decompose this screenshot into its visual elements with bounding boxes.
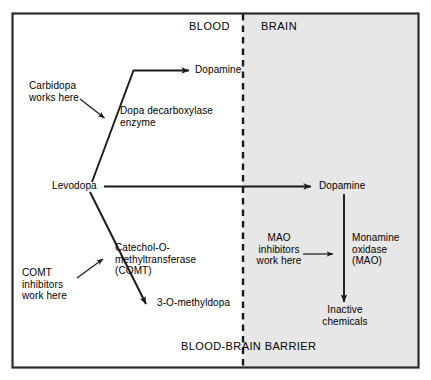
annotation-mao-inhibitors-work-here: MAO inhibitors work here bbox=[251, 232, 307, 267]
annotation-carbidopa-works-here: Carbidopa works here bbox=[29, 80, 79, 103]
region-label-blood: BLOOD bbox=[189, 21, 230, 33]
node-dopamine-brain: Dopamine bbox=[319, 180, 365, 192]
annotation-comt-inhibitors-work-here: COMT inhibitors work here bbox=[22, 267, 67, 302]
node-3-o-methyldopa: 3-O-methyldopa bbox=[157, 297, 230, 309]
node-levodopa: Levodopa bbox=[52, 180, 97, 192]
blood-brain-barrier-diagram: BLOOD BRAIN Dopamine Levodopa Dopamine 3… bbox=[0, 0, 431, 380]
enzyme-comt: Catechol-O- methyltransferase (COMT) bbox=[115, 242, 196, 277]
region-label-brain: BRAIN bbox=[261, 21, 297, 33]
node-dopamine-blood: Dopamine bbox=[195, 64, 241, 76]
enzyme-mao: Monamine oxidase (MAO) bbox=[352, 232, 400, 267]
enzyme-dopa-decarboxylase: Dopa decarboxylase enzyme bbox=[120, 105, 213, 128]
node-inactive-chemicals: Inactive chemicals bbox=[312, 304, 378, 327]
diagram-title-blood-brain-barrier: BLOOD-BRAIN BARRIER bbox=[181, 341, 316, 353]
